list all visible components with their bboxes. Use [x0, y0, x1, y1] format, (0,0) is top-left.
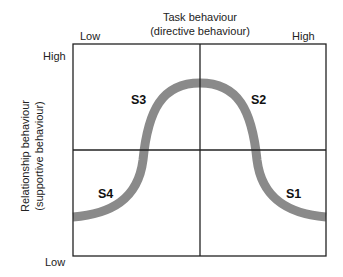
quadrant-label-s1: S1 — [286, 187, 301, 201]
quadrant-label-s4: S4 — [98, 187, 113, 201]
quadrant-label-s2: S2 — [251, 93, 266, 107]
quadrant-label-s3: S3 — [131, 93, 146, 107]
quadrant-grid — [0, 0, 343, 277]
